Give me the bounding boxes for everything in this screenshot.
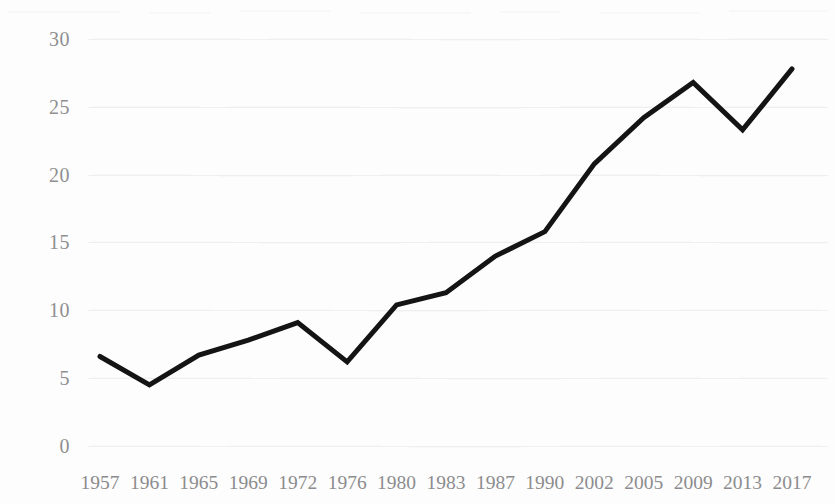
chart-plot-area	[0, 0, 835, 504]
ytick-label-15: 15	[14, 232, 70, 252]
ytick-label-10: 10	[14, 300, 70, 320]
ytick-label-5: 5	[14, 368, 70, 388]
ytick-label-20: 20	[14, 165, 70, 185]
xtick-label-2017: 2017	[762, 473, 822, 493]
ytick-label-0: 0	[14, 436, 70, 456]
ytick-label-25: 25	[14, 97, 70, 117]
ytick-label-30: 30	[14, 29, 70, 49]
data-series-line	[100, 69, 792, 385]
line-chart: 30 25 20 15 10 5 0 195719611965196919721…	[0, 0, 835, 504]
